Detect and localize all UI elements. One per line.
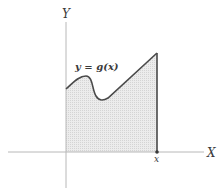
x-axis-label: X xyxy=(206,146,216,160)
curve-label: y = g(x) xyxy=(74,61,119,72)
y-axis-label: Y xyxy=(62,7,71,21)
x-point-label: x xyxy=(154,154,159,164)
area-under-curve-diagram: Y X y = g(x) x xyxy=(0,0,220,196)
